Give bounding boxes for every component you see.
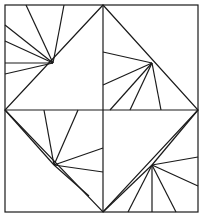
line-figure-svg (0, 0, 203, 216)
figure-background (0, 0, 203, 216)
figure-canvas (0, 0, 203, 216)
